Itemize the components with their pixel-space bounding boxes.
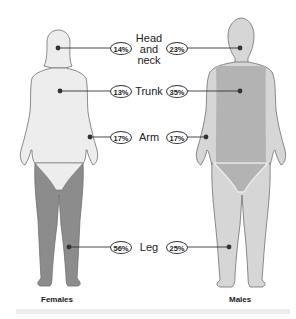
female-trunk-pct: 13% [110, 85, 132, 98]
male-trunk [216, 66, 266, 163]
male-head-neck-pct: 23% [166, 42, 188, 55]
female-arm-pct: 17% [110, 131, 132, 144]
male-head [228, 18, 254, 64]
female-leg-pct: 56% [110, 241, 132, 254]
label-leg: Leg [134, 242, 164, 253]
male-arm-pct: 17% [166, 131, 188, 144]
label-arm: Arm [134, 132, 164, 143]
bottom-strip [16, 309, 290, 314]
label-neck-line: neck [134, 55, 164, 66]
male-leg-pct: 25% [166, 241, 188, 254]
label-trunk: Trunk [134, 86, 164, 97]
female-torso [20, 68, 97, 165]
female-head-neck-pct: 14% [110, 42, 132, 55]
caption-males: Males [229, 295, 251, 304]
female-figure [20, 30, 97, 286]
label-head-and-neck: Head and neck [134, 33, 164, 66]
caption-females: Females [41, 295, 73, 304]
male-trunk-pct: 35% [166, 85, 188, 98]
